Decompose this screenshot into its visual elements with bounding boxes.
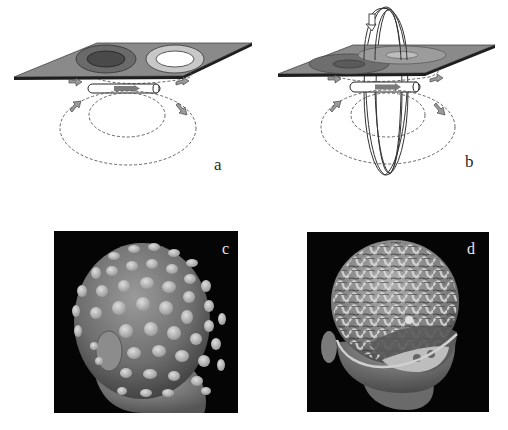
dipole-field-diagram-a: [0, 0, 254, 215]
field-line-inner: [351, 93, 425, 137]
panel-label-a: a: [214, 156, 222, 173]
panel-a-dipole-diagram: a: [0, 0, 254, 215]
field-arrow-icon: [70, 101, 81, 112]
panel-label-c: c: [222, 241, 229, 257]
head-with-electrodes-image: [54, 231, 238, 413]
field-arrow-icon: [430, 74, 443, 82]
field-line-inner: [89, 93, 165, 137]
dipole-source: [88, 84, 160, 93]
dipole-field-diagram-b: [254, 0, 508, 215]
panel-label-b: b: [465, 153, 474, 170]
head-with-exposed-brain-image: [307, 232, 489, 412]
panel-label-d: d: [467, 241, 475, 257]
field-arrow-icon: [176, 103, 187, 115]
field-arrow-icon: [434, 103, 445, 115]
dipole-source: [350, 82, 420, 92]
panel-b-rotated-dipole-diagram: b: [254, 0, 508, 215]
panel-d-brain-render: d: [307, 232, 489, 412]
panel-c-eeg-head-render: c: [54, 231, 238, 413]
